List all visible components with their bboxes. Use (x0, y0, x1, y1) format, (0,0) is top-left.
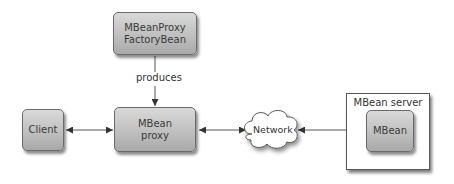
mbean-proxy-node: MBean proxy (114, 107, 196, 152)
proxy-label-line2: proxy (138, 130, 172, 142)
mbeanproxy-factorybean-node: MBeanProxy FactoryBean (113, 12, 197, 55)
proxy-label-line1: MBean (138, 118, 172, 130)
factory-label-line2: FactoryBean (124, 34, 186, 46)
mbean-node: MBean (366, 110, 414, 152)
client-label: Client (29, 124, 58, 136)
network-label: Network (253, 124, 293, 135)
client-node: Client (22, 109, 64, 151)
factory-label-line1: MBeanProxy (124, 22, 186, 34)
mbean-label: MBean (373, 125, 407, 137)
mbean-server-label: MBean server (347, 97, 429, 108)
produces-edge-label: produces (135, 72, 183, 83)
